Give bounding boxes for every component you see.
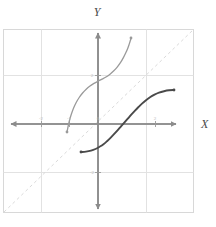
inverse-function-curve-endpoint-end [130,37,133,40]
x-tick-label--2: -2 [39,116,43,121]
x-tick-label--1: -1 [67,116,71,121]
y-tick-label--2: -2 [90,170,94,175]
main-function-curve-endpoint-end [173,89,176,92]
coordinate-plane-svg [0,0,216,227]
y-tick-label-2: 2 [91,73,94,78]
x-axis-title: X [201,118,208,130]
x-tick-label-0: 0 [97,116,100,121]
graph-figure: Y X -2-1022-2 [0,0,216,227]
x-tick-label-2: 2 [154,116,157,121]
inverse-function-curve-endpoint-start [66,131,69,134]
y-axis-title: Y [94,6,101,18]
main-function-curve-endpoint-start [80,151,83,154]
